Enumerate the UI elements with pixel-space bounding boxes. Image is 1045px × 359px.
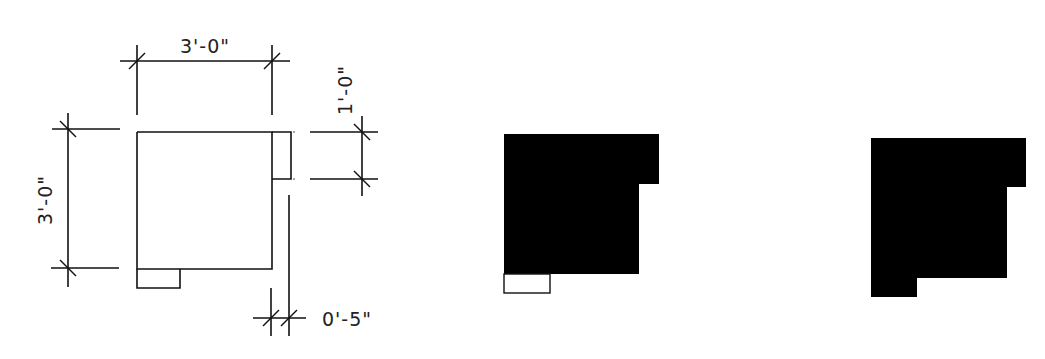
solid-merged <box>871 138 1026 297</box>
outline-tab <box>504 274 550 293</box>
notch-outline <box>272 132 291 179</box>
notch-dimension: 1'-0" <box>293 65 378 196</box>
solid-body <box>504 134 659 274</box>
drawing-canvas: 3'-0" 3'-0" 1'-0" <box>0 0 1045 359</box>
left-dimension: 3'-0" <box>34 113 120 287</box>
notch-dimension-label: 1'-0" <box>334 65 356 115</box>
offset-dimension: 0'-5" <box>253 195 372 336</box>
top-dimension-label: 3'-0" <box>180 35 230 57</box>
top-dimension: 3'-0" <box>120 35 290 115</box>
main-square-outline <box>137 132 272 269</box>
dimensioned-plan: 3'-0" 3'-0" 1'-0" <box>34 35 378 336</box>
merged-solid-body <box>871 138 1026 297</box>
left-dimension-label: 3'-0" <box>34 175 56 225</box>
bottom-tab-outline <box>137 269 180 288</box>
solid-with-open-tab <box>504 134 659 293</box>
offset-dimension-label: 0'-5" <box>322 308 372 330</box>
